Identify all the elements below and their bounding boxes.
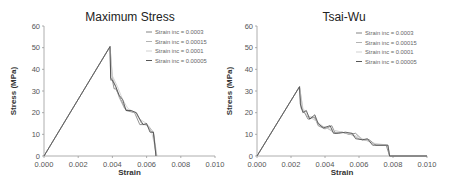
y-tick-label: 10 [245,130,253,139]
x-tick-label: 0.000 [248,160,267,169]
y-tick-label: 60 [245,22,253,31]
y-tick-label: 30 [32,87,40,96]
data-series-line [257,87,427,156]
y-tick-label: 20 [32,108,40,117]
x-tick-label: 0.008 [384,160,403,169]
legend-entry: Strain inc = 0.0003 [155,29,204,35]
y-tick-label: 50 [245,43,253,52]
legend-entry: Strain inc = 0.00005 [155,58,207,64]
chart-title: Tsai-Wu [322,10,365,24]
y-tick-label: 40 [245,65,253,74]
y-axis-label: Stress (MPa) [9,66,18,115]
x-tick-label: 0.000 [35,160,54,169]
x-axis-label: Strain [331,168,354,177]
y-tick-label: 60 [32,22,40,31]
x-tick-label: 0.002 [69,160,88,169]
chart-svg: Maximum Stress01020304050600.0000.0020.0… [0,0,230,184]
data-series-line [257,87,427,156]
y-tick-label: 20 [245,108,253,117]
legend-entry: Strain inc = 0.00015 [155,39,207,45]
chart-maximum-stress: Maximum Stress01020304050600.0000.0020.0… [0,0,230,184]
data-series-line [257,87,427,156]
chart-title: Maximum Stress [85,10,174,24]
y-tick-label: 10 [32,130,40,139]
x-tick-label: 0.008 [171,160,190,169]
x-tick-label: 0.002 [282,160,301,169]
y-tick-label: 50 [32,43,40,52]
y-tick-label: 40 [32,65,40,74]
legend-entry: Strain inc = 0.0003 [365,30,414,36]
legend-entry: Strain inc = 0.0001 [155,48,204,54]
data-series-line [257,87,427,156]
chart-tsai-wu: Tsai-Wu01020304050600.0000.0020.0040.006… [222,0,453,184]
x-axis-label: Strain [118,168,141,177]
y-tick-label: 30 [245,87,253,96]
legend-entry: Strain inc = 0.00015 [365,40,417,46]
data-series-line [44,47,156,156]
legend-entry: Strain inc = 0.0001 [365,49,414,55]
x-tick-label: 0.010 [418,160,437,169]
y-axis-label: Stress (MPa) [225,66,234,115]
legend-entry: Strain inc = 0.00005 [365,59,417,65]
chart-svg: Tsai-Wu01020304050600.0000.0020.0040.006… [222,0,453,184]
